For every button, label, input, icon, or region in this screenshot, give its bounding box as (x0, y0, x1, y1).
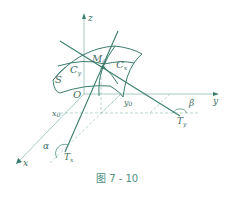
z-arrow-icon (82, 13, 86, 19)
x-axis (19, 94, 84, 161)
axes (19, 16, 216, 161)
cy-label: Cy (70, 64, 82, 77)
surface-label: S (55, 74, 62, 85)
tx-label: Tx (64, 152, 74, 163)
figure-caption: 图 7 - 10 (96, 173, 138, 184)
cx-label: Cx (116, 59, 128, 71)
x-label: x (23, 158, 28, 168)
alpha-label: α (43, 141, 49, 151)
z-label: z (87, 13, 93, 23)
ty-label: Ty (177, 116, 187, 128)
y0-label: y0 (123, 98, 133, 107)
point-m0 (101, 65, 104, 68)
origin-label: O (73, 89, 81, 100)
x0-label: x0 (52, 109, 61, 118)
y-label: y (212, 96, 219, 106)
tangent-ty (60, 41, 180, 116)
m0-label: M0 (91, 53, 106, 65)
beta-label: β (188, 98, 194, 108)
angle-arcs (56, 109, 187, 158)
surface-tangent-diagram: z y x O S M0 Cy Cx y0 x0 Tx Ty α β 图 7 -… (0, 0, 230, 205)
